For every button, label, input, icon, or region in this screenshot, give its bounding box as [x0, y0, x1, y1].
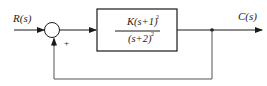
feedback-sign: +: [64, 38, 69, 48]
transfer-denominator: (s+2): [128, 33, 152, 45]
input-label: R(s): [12, 12, 32, 25]
denominator-exponent: 2: [151, 31, 154, 37]
numerator-exponent: 2: [156, 14, 159, 20]
summing-junction: [45, 23, 60, 38]
block-diagram: R(s) K(s+1) 2 (s+2) 2 C(s) +: [0, 0, 267, 86]
output-label: C(s): [238, 10, 257, 23]
transfer-numerator: K(s+1): [126, 16, 158, 28]
